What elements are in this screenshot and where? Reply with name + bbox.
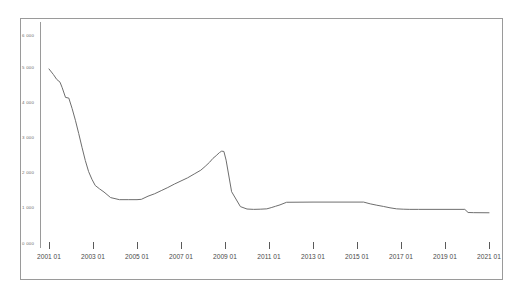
x-tick-label-2001: 2001 01 <box>29 253 69 261</box>
x-tick-mark-2021 <box>489 242 490 249</box>
x-tick-mark-2007 <box>181 242 182 249</box>
y-tick-label-4000: 4 000 <box>22 100 34 105</box>
x-tick-label-2015: 2015 01 <box>337 253 377 261</box>
y-tick-label-2000: 2 000 <box>22 170 34 175</box>
y-axis-spine <box>40 22 41 248</box>
x-tick-label-2009: 2009 01 <box>205 253 245 261</box>
y-tick-label-6000: 6 000 <box>22 33 34 38</box>
x-tick-label-2013: 2013 01 <box>293 253 333 261</box>
x-tick-label-2003: 2003 01 <box>73 253 113 261</box>
x-tick-mark-2009 <box>225 242 226 249</box>
y-tick-label-3000: 3 000 <box>22 135 34 140</box>
x-tick-mark-2001 <box>49 242 50 249</box>
y-tick-label-1000: 1 000 <box>22 205 34 210</box>
x-tick-label-2005: 2005 01 <box>117 253 157 261</box>
x-tick-mark-2015 <box>357 242 358 249</box>
x-tick-label-2017: 2017 01 <box>381 253 421 261</box>
x-tick-mark-2013 <box>313 242 314 249</box>
x-tick-label-2019: 2019 01 <box>425 253 465 261</box>
x-tick-mark-2011 <box>269 242 270 249</box>
x-tick-mark-2017 <box>401 242 402 249</box>
x-tick-label-2021: 2021 01 <box>469 253 509 261</box>
plot-area-frame <box>20 18 503 280</box>
x-tick-mark-2003 <box>93 242 94 249</box>
y-tick-label-0: 0 000 <box>22 241 34 246</box>
chart-container: 6 000 5 000 4 000 3 000 2 000 1 000 0 00… <box>0 0 521 292</box>
x-tick-mark-2005 <box>137 242 138 249</box>
x-tick-label-2007: 2007 01 <box>161 253 201 261</box>
x-tick-label-2011: 2011 01 <box>249 253 289 261</box>
y-tick-label-5000: 5 000 <box>22 65 34 70</box>
x-tick-mark-2019 <box>445 242 446 249</box>
